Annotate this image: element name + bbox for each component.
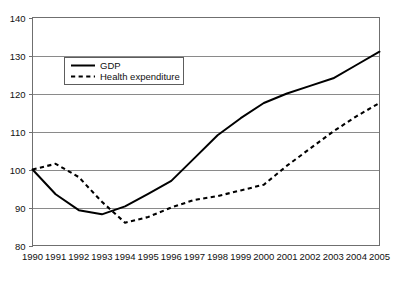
x-tick-label-1993: 1993 xyxy=(91,251,112,262)
y-tick-label-100: 100 xyxy=(10,165,26,176)
chart-background xyxy=(0,0,393,283)
legend-label-gdp: GDP xyxy=(100,60,121,71)
x-tick-label-1994: 1994 xyxy=(114,251,135,262)
x-tick-label-2000: 2000 xyxy=(253,251,274,262)
x-tick-label-1997: 1997 xyxy=(184,251,205,262)
legend-label-health-expenditure: Health expenditure xyxy=(100,71,180,82)
x-tick-label-1992: 1992 xyxy=(68,251,89,262)
y-tick-label-120: 120 xyxy=(10,89,26,100)
y-tick-label-90: 90 xyxy=(15,203,26,214)
x-tick-label-2002: 2002 xyxy=(300,251,321,262)
y-tick-label-130: 130 xyxy=(10,51,26,62)
x-tick-label-1999: 1999 xyxy=(230,251,251,262)
x-tick-label-1990: 1990 xyxy=(22,251,43,262)
x-tick-label-1996: 1996 xyxy=(161,251,182,262)
line-chart: 8090100110120130140 19901991199219931994… xyxy=(0,0,393,283)
y-tick-label-140: 140 xyxy=(10,13,26,24)
x-tick-label-2004: 2004 xyxy=(346,251,367,262)
x-tick-label-2005: 2005 xyxy=(369,251,390,262)
x-tick-label-2001: 2001 xyxy=(276,251,297,262)
x-tick-label-1998: 1998 xyxy=(207,251,228,262)
x-tick-label-1991: 1991 xyxy=(45,251,66,262)
x-axis-tick-labels: 1990199119921993199419951996199719981999… xyxy=(22,251,390,262)
chart-container: 8090100110120130140 19901991199219931994… xyxy=(0,0,393,283)
chart-legend: GDP Health expenditure xyxy=(65,58,184,85)
y-tick-label-110: 110 xyxy=(10,127,25,138)
x-tick-label-1995: 1995 xyxy=(138,251,159,262)
x-tick-label-2003: 2003 xyxy=(323,251,344,262)
